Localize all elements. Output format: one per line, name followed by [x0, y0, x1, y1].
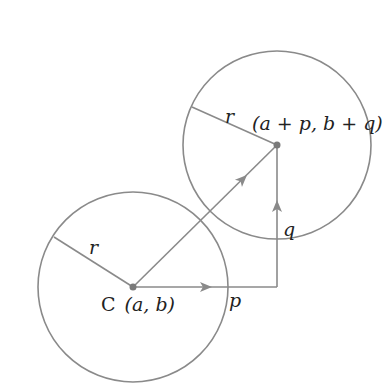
original-center-point [130, 284, 137, 291]
original-radius-label: r [89, 236, 100, 258]
center-label-prefix: C [101, 293, 116, 315]
center-label-coords: (a, b) [125, 293, 175, 315]
translated-radius-label: r [225, 105, 236, 127]
translation-diagram: r r C (a, b) (a + p, b + q) p q [0, 0, 384, 389]
original-center-label: C (a, b) [101, 293, 175, 315]
vector-q-label: q [283, 218, 295, 240]
translated-center-point [274, 142, 281, 149]
vector-p-label: p [229, 289, 241, 311]
translated-center-label: (a + p, b + q) [252, 112, 383, 134]
diagonal-vector [133, 145, 277, 287]
